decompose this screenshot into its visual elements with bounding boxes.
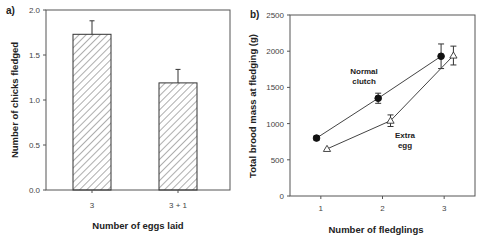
annotation-extra-egg-line2: egg [398,141,412,150]
y-tick-label: 1500 [266,83,284,92]
x-axis-ticks-b: 123 [319,196,447,213]
filled-circle-marker [313,135,320,142]
bar [159,83,197,190]
x-tick-label: 3 [442,204,447,213]
series-b [313,44,457,152]
open-triangle-marker [323,145,330,151]
bar-chart-panel-a: a) 0.00.51.01.52.0 33 + 1 Number of eggs… [6,5,230,231]
y-axis-ticks-b: 05001000150020002500 [266,11,290,201]
bars-a [73,21,197,190]
open-triangle-marker [450,52,457,58]
y-tick-label: 500 [271,156,285,165]
plot-frame-b [290,15,475,196]
annotation-extra-egg-line1: Extra [395,131,416,140]
y-axis-label-b: Total brood mass at fledging (g) [247,34,258,178]
x-tick-label: 1 [319,204,324,213]
line-chart-panel-b: b) 05001000150020002500 123 Normal clutc… [247,9,475,235]
y-axis-ticks-a: 0.00.51.01.52.0 [29,6,46,195]
x-axis-ticks-a: 33 + 1 [90,190,188,210]
bar [73,34,111,190]
y-tick-label: 2.0 [29,6,41,15]
annotation-normal-clutch-line1: Normal [350,67,378,76]
x-tick-label: 3 + 1 [169,201,188,210]
figure: a) 0.00.51.01.52.0 33 + 1 Number of eggs… [0,0,481,243]
x-tick-label: 2 [380,204,385,213]
panel-a-label: a) [6,5,15,16]
y-tick-label: 2500 [266,11,284,20]
y-tick-label: 1.5 [29,51,41,60]
y-tick-label: 2000 [266,47,284,56]
x-tick-label: 3 [90,201,95,210]
y-tick-label: 1000 [266,120,284,129]
y-axis-label-a: Number of chicks fledged [9,42,20,158]
series-line [327,56,453,149]
filled-circle-marker [438,53,445,60]
y-tick-label: 1.0 [29,96,41,105]
y-tick-label: 0 [280,192,285,201]
y-tick-label: 0.5 [29,141,41,150]
filled-circle-marker [375,95,382,102]
y-tick-label: 0.0 [29,186,41,195]
x-axis-label-b: Number of fledglings [329,224,424,235]
annotation-normal-clutch-line2: clutch [352,77,376,86]
x-axis-label-a: Number of eggs laid [92,220,184,231]
panel-b-label: b) [250,9,259,20]
